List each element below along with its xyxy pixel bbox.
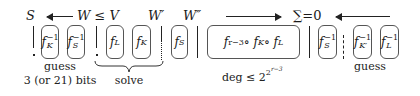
caption-degree: deg ≤ 22r−3	[222, 63, 283, 84]
box-sub: L	[386, 42, 398, 50]
brace-solve	[94, 60, 164, 74]
caption-solve: solve	[104, 75, 154, 87]
label-w-double-prime: W″	[183, 9, 201, 22]
label-s: S	[26, 9, 35, 22]
box-sub: S	[179, 38, 184, 47]
box-compose-k: ∘ f	[244, 35, 258, 49]
box-f-s: fS	[171, 25, 188, 59]
caption-guess-left: guess	[35, 61, 85, 73]
box-f-l: fL	[106, 25, 124, 59]
box-sub: K′	[359, 42, 371, 50]
separator-s	[33, 26, 34, 48]
box-base: f	[381, 35, 385, 49]
label-w-prime: W′	[148, 9, 164, 22]
box-sub: S	[73, 42, 85, 50]
box-f-k: fK	[132, 25, 151, 59]
box-sub: S	[324, 42, 336, 50]
arrow-left-to-sum	[336, 16, 390, 17]
degree-prefix: deg ≤ 2	[222, 71, 266, 84]
box-f-l-inverse: f−1L	[380, 25, 399, 59]
separator-dashed	[343, 35, 344, 59]
box-f-s-inverse-right: f−1S	[318, 25, 337, 59]
label-sum-zero: ∑=0	[293, 9, 321, 22]
box-compose-l: ∘ f	[264, 35, 278, 49]
separator-w	[96, 26, 97, 48]
separator-w-prime-solid	[161, 26, 162, 42]
arrow-left-to-s	[47, 16, 73, 17]
box-base: f	[67, 35, 71, 49]
box-sub: K	[141, 38, 147, 47]
separator-w-double-prime	[197, 26, 198, 58]
box-sub: K	[47, 42, 59, 50]
box-base: f	[354, 35, 358, 49]
label-w-le-v: W ≤ V	[77, 9, 119, 22]
separator-w-prime-dotted	[161, 43, 162, 60]
box-sup: r−3	[228, 38, 244, 47]
degree-exponent-2: r−3	[271, 65, 283, 72]
separator-s-dot	[33, 54, 35, 56]
box-composition: fr−3 ∘ fK ∘ fL	[207, 25, 300, 59]
arrow-right-to-sum	[226, 16, 281, 17]
box-f-k-prime-inverse: f−1K′	[353, 25, 372, 59]
caption-guess-bits: 3 (or 21) bits	[15, 75, 105, 87]
separator-w-dot	[96, 54, 98, 56]
box-sub: L	[278, 38, 283, 47]
box-f-s-inverse: f−1S	[67, 25, 85, 59]
box-f-k-inverse: f−1K	[41, 25, 59, 59]
box-base: f	[41, 35, 45, 49]
box-sub: L	[115, 38, 120, 47]
box-base: f	[319, 35, 323, 49]
caption-guess-right: guess	[345, 61, 395, 73]
separator-sum	[309, 26, 310, 58]
